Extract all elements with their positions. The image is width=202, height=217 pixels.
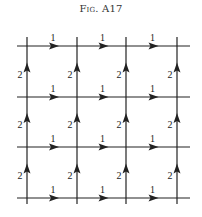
edge-label-1: 1 — [150, 184, 155, 195]
edge-label-1: 1 — [100, 184, 105, 195]
edge-label-2: 2 — [68, 119, 73, 130]
edge-label-1: 1 — [100, 83, 105, 94]
edge-label-2: 2 — [18, 119, 23, 130]
edge-label-2: 2 — [18, 170, 23, 181]
edge-label-2: 2 — [117, 69, 122, 80]
edge-label-2: 2 — [117, 170, 122, 181]
edge-label-1: 1 — [150, 83, 155, 94]
edge-label-1: 1 — [51, 83, 56, 94]
edge-label-1: 1 — [100, 32, 105, 43]
edge-label-2: 2 — [168, 119, 173, 130]
edge-label-2: 2 — [68, 69, 73, 80]
edge-label-2: 2 — [168, 69, 173, 80]
edge-label-2: 2 — [168, 170, 173, 181]
edge-label-2: 2 — [68, 170, 73, 181]
edge-label-1: 1 — [51, 184, 56, 195]
lattice-diagram: 111111111111222222222222 — [0, 0, 202, 217]
edge-label-1: 1 — [150, 133, 155, 144]
edge-label-2: 2 — [117, 119, 122, 130]
edge-label-1: 1 — [150, 32, 155, 43]
edge-label-1: 1 — [100, 133, 105, 144]
edge-label-1: 1 — [51, 133, 56, 144]
edge-label-1: 1 — [51, 32, 56, 43]
edge-label-2: 2 — [18, 69, 23, 80]
